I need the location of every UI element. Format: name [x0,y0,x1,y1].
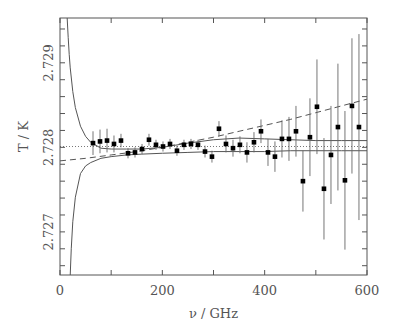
x-tick-label: 400 [252,283,277,298]
data-point [294,129,299,134]
data-point [147,137,152,142]
y-tick-label: 2.729 [42,44,57,81]
data-point [252,140,257,145]
data-point [126,151,131,156]
x-tick-label: 200 [150,283,175,298]
data-point [105,138,110,143]
y-axis-ticks: 2.7272.7282.729 [42,29,368,266]
data-point [98,139,103,144]
data-point [161,144,166,149]
data-point [196,143,201,148]
data-point [168,142,173,147]
data-point [154,143,159,148]
data-point [175,148,180,153]
data-point [203,149,208,154]
data-point [91,141,96,146]
data-point [210,154,215,159]
data-point [301,179,306,184]
data-point [224,142,229,147]
data-point [315,104,320,109]
data-point [259,129,264,134]
y-tick-label: 2.727 [42,213,57,250]
lower-bound-line [70,151,367,275]
data-point [308,135,313,140]
data-point [280,137,285,142]
data-point [133,150,138,155]
data-point [112,142,117,147]
data-point [189,142,194,147]
data-point [231,146,236,151]
x-tick-label: 0 [56,283,64,298]
data-point [322,186,327,191]
x-axis-label: ν / GHz [189,306,238,321]
data-points [91,34,362,250]
data-point [238,143,243,148]
y-axis-label: T / K [16,121,31,152]
data-point [357,125,362,130]
data-point [182,143,187,148]
data-point [119,138,124,143]
data-point [343,178,348,183]
plot-lines [60,18,367,275]
chart: 0200400600 2.7272.7282.729 ν / GHz T / K [0,0,397,335]
data-point [336,125,341,130]
data-point [350,104,355,109]
data-point [140,147,145,152]
data-point [273,154,278,159]
data-point [287,137,292,142]
y-tick-label: 2.728 [42,129,57,166]
x-tick-label: 600 [355,283,380,298]
data-point [329,153,334,158]
data-point [266,150,271,155]
data-point [217,126,222,131]
data-point [245,150,250,155]
